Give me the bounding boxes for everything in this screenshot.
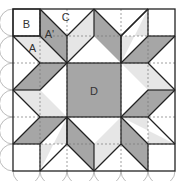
label-a: A: [29, 42, 37, 54]
arc-left: [0, 144, 13, 171]
arc-bottom: [67, 171, 94, 181]
label-d: D: [90, 85, 98, 97]
quilt-diagram: BCA'AD: [0, 0, 179, 181]
arc-left: [0, 36, 13, 63]
arc-bottom: [148, 171, 175, 181]
arc-left: [0, 117, 13, 144]
label-c: C: [62, 11, 70, 23]
label-aprime: A': [45, 28, 54, 40]
arc-left: [0, 63, 13, 90]
label-b: B: [23, 18, 30, 30]
arc-bottom: [121, 171, 148, 181]
arc-left: [0, 90, 13, 117]
arc-bottom: [13, 171, 40, 181]
arc-bottom: [94, 171, 121, 181]
arc-bottom: [40, 171, 67, 181]
arc-left: [0, 9, 13, 36]
